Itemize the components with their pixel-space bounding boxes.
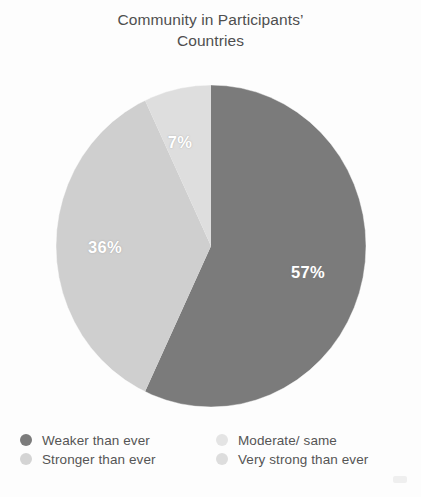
legend-item-stronger-than-ever[interactable]: Stronger than ever — [20, 450, 156, 468]
chart-title: Community in Participants’ Countries — [0, 9, 421, 51]
chart-legend: Weaker than ever Stronger than ever Mode… — [16, 430, 411, 476]
legend-label-moderate-same: Moderate/ same — [238, 433, 337, 448]
legend-swatch-icon — [20, 434, 32, 446]
legend-swatch-icon — [216, 434, 228, 446]
legend-label-stronger-than-ever: Stronger than ever — [42, 452, 156, 467]
pie-chart-figure: Community in Participants’ Countries — [0, 0, 421, 497]
pie-label-57-percent: 57% — [291, 263, 325, 282]
legend-label-very-strong-than-ever: Very strong than ever — [238, 452, 368, 467]
pie-label-7-percent: 7% — [168, 133, 192, 152]
pie-label-36-percent: 36% — [88, 238, 122, 257]
legend-item-very-strong-than-ever[interactable]: Very strong than ever — [216, 450, 368, 468]
pie-plot-area: 57% 36% 7% — [50, 80, 375, 412]
legend-swatch-icon — [216, 453, 228, 465]
legend-item-moderate-same[interactable]: Moderate/ same — [216, 431, 337, 449]
legend-swatch-icon — [20, 453, 32, 465]
legend-item-weaker-than-ever[interactable]: Weaker than ever — [20, 431, 150, 449]
legend-label-weaker-than-ever: Weaker than ever — [42, 433, 150, 448]
paper-speck — [393, 476, 407, 483]
